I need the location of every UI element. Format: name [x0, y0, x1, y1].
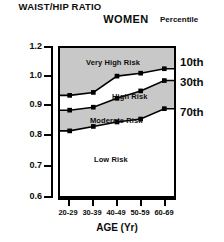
zone-label-high-risk: High Risk — [112, 92, 148, 101]
y-tick-label: 0.9 — [16, 99, 42, 109]
data-marker — [162, 78, 167, 83]
y-axis-tick — [44, 75, 53, 77]
y-axis-tick — [44, 46, 53, 48]
zone-label-moderate-risk: Moderate Risk — [90, 116, 143, 125]
data-marker — [91, 90, 96, 95]
y-tick-label: 0.8 — [16, 129, 42, 139]
legend-item-70th: 70th — [180, 106, 224, 118]
x-tick-label: 60-69 — [149, 208, 179, 217]
y-axis-tick — [44, 134, 53, 136]
data-marker — [67, 129, 72, 134]
x-axis-title: AGE (Yr) — [58, 222, 176, 233]
legend-item-30th: 30th — [180, 76, 224, 88]
y-axis-tick — [44, 196, 53, 198]
y-tick-label: 0.7 — [16, 160, 42, 170]
data-marker — [162, 66, 167, 71]
y-axis-title: WAIST/HIP RATIO — [18, 2, 102, 12]
x-axis-tick — [164, 198, 166, 206]
x-axis — [58, 198, 176, 206]
x-axis-tick-labels: 20-29 30-39 40-49 50-59 60-69 — [48, 208, 188, 220]
x-axis-tick — [140, 198, 142, 206]
plot-area: Very High Risk High Risk Moderate Risk L… — [58, 46, 176, 198]
data-marker — [67, 108, 72, 113]
x-axis-tick — [68, 198, 70, 206]
data-marker — [115, 74, 120, 79]
data-marker — [67, 93, 72, 98]
zone-label-low-risk: Low Risk — [94, 155, 128, 164]
data-marker — [91, 105, 96, 110]
y-tick-label: 1.0 — [16, 70, 42, 80]
data-marker — [162, 106, 167, 111]
x-axis-tick — [92, 198, 94, 206]
y-axis-tick — [44, 104, 53, 106]
y-tick-label: 0.6 — [16, 191, 42, 201]
percentile-legend: 10th 30th 70th — [180, 46, 224, 156]
legend-item-10th: 10th — [180, 56, 224, 68]
x-axis-tick — [116, 198, 118, 206]
chart-title: WOMEN — [93, 14, 159, 26]
y-tick-label: 1.2 — [16, 41, 42, 51]
legend-title: Percentile — [160, 16, 224, 24]
zone-label-very-high-risk: Very High Risk — [86, 58, 140, 67]
data-marker — [138, 71, 143, 76]
y-axis-spine — [51, 46, 53, 198]
y-axis-tick-labels: 1.2 1.0 0.9 0.8 0.7 0.6 — [12, 46, 42, 198]
y-axis-tick — [44, 165, 53, 167]
chart-root: WAIST/HIP RATIO WOMEN Percentile 1.2 1.0… — [0, 0, 224, 242]
y-axis — [44, 46, 53, 198]
